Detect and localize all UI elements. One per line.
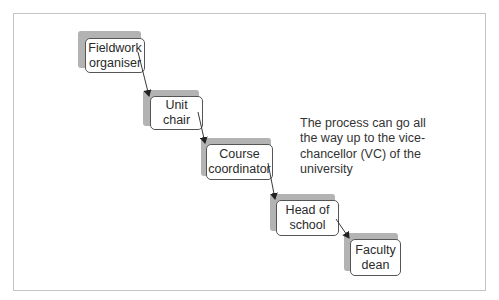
node-faculty-dean: Faculty dean xyxy=(350,239,401,276)
node-head-of-school: Head of school xyxy=(276,200,339,236)
node-unit-chair: Unit chair xyxy=(150,96,203,130)
node-course-coordinator: Course coordinator xyxy=(206,144,273,180)
escalation-annotation: The process can go all the way up to the… xyxy=(300,116,440,177)
node-fieldwork-organiser: Fieldwork organiser xyxy=(85,38,145,73)
